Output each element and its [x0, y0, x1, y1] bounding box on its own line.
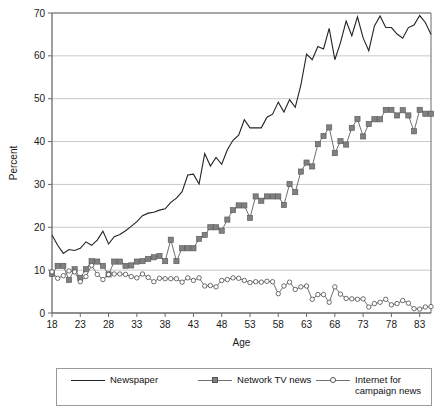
data-point-marker	[389, 107, 394, 112]
data-point-marker	[361, 134, 366, 139]
data-point-marker	[191, 246, 196, 251]
x-axis-tick-label: 28	[103, 319, 115, 330]
data-point-marker	[411, 129, 416, 134]
data-point-marker	[310, 297, 314, 301]
x-axis-tick-label: 83	[414, 319, 426, 330]
x-axis-tick-label: 33	[131, 319, 143, 330]
data-point-marker	[236, 203, 241, 208]
x-axis-tick-label: 58	[273, 319, 285, 330]
data-point-marker	[349, 125, 354, 130]
data-point-marker	[259, 198, 264, 203]
data-point-marker	[304, 284, 308, 288]
data-point-marker	[406, 113, 411, 118]
legend-label-network-tv-news: Network TV news	[237, 374, 311, 385]
data-point-marker	[157, 276, 161, 280]
data-point-marker	[428, 111, 433, 116]
series-line	[52, 16, 431, 254]
data-point-marker	[117, 259, 122, 264]
data-point-marker	[78, 280, 82, 284]
data-point-marker	[429, 304, 433, 308]
x-axis-title: Age	[233, 337, 251, 348]
legend-item-internet-campaign-news: Internet for campaign news	[316, 374, 425, 396]
data-point-marker	[101, 277, 105, 281]
data-point-marker	[134, 259, 139, 264]
data-point-marker	[123, 272, 127, 276]
data-point-marker	[270, 194, 275, 199]
legend-label-internet-campaign-news: Internet for campaign news	[355, 374, 421, 396]
data-point-marker	[168, 237, 173, 242]
data-point-marker	[265, 279, 269, 283]
y-axis-tick-label: 40	[34, 136, 46, 147]
data-point-marker	[344, 142, 349, 147]
data-point-marker	[321, 133, 326, 138]
data-point-marker	[287, 181, 292, 186]
data-point-marker	[180, 246, 185, 251]
data-point-marker	[293, 190, 298, 195]
data-point-marker	[361, 297, 365, 301]
x-axis-tick-label: 73	[358, 319, 370, 330]
legend-item-network-tv-news: Network TV news	[198, 374, 316, 386]
data-point-marker	[355, 116, 360, 121]
data-point-marker	[372, 301, 376, 305]
y-axis-title: Percent	[8, 146, 19, 181]
data-point-marker	[372, 117, 377, 122]
data-point-marker	[225, 277, 229, 281]
data-point-marker	[214, 285, 218, 289]
data-point-marker	[174, 259, 179, 264]
chart-legend: Newspaper Network TV news Internet for c…	[56, 368, 432, 406]
data-point-marker	[264, 194, 269, 199]
data-point-marker	[310, 164, 315, 169]
data-point-marker	[219, 228, 224, 233]
data-point-marker	[367, 305, 371, 309]
data-point-marker	[106, 272, 110, 276]
data-point-marker	[384, 297, 388, 301]
data-point-marker	[95, 259, 100, 264]
x-axis-tick-label: 48	[216, 319, 228, 330]
data-point-marker	[248, 280, 252, 284]
data-point-marker	[118, 272, 122, 276]
y-axis-tick-label: 20	[34, 222, 46, 233]
data-point-marker	[67, 269, 71, 273]
data-point-marker	[55, 263, 60, 268]
plot-area: 0102030405060701823283338434853586368737…	[0, 0, 443, 360]
data-point-marker	[140, 259, 145, 264]
data-point-marker	[61, 274, 65, 278]
line-chart-svg: 0102030405060701823283338434853586368737…	[0, 0, 443, 360]
data-point-marker	[293, 287, 297, 291]
y-axis-tick-label: 10	[34, 265, 46, 276]
x-axis-tick-label: 78	[386, 319, 398, 330]
data-point-marker	[366, 121, 371, 126]
data-point-marker	[327, 125, 332, 130]
data-point-marker	[333, 285, 337, 289]
data-point-marker	[129, 274, 133, 278]
data-point-marker	[394, 113, 399, 118]
data-point-marker	[230, 208, 235, 213]
data-point-marker	[389, 303, 393, 307]
data-point-marker	[50, 270, 54, 274]
data-point-marker	[185, 246, 190, 251]
y-axis-tick-label: 0	[39, 308, 45, 319]
data-point-marker	[112, 259, 117, 264]
data-point-marker	[400, 108, 405, 113]
data-point-marker	[61, 263, 66, 268]
data-point-marker	[276, 194, 281, 199]
data-point-marker	[203, 284, 207, 288]
data-point-marker	[95, 272, 99, 276]
data-point-marker	[100, 263, 105, 268]
data-point-marker	[66, 277, 71, 282]
data-point-marker	[89, 263, 93, 267]
data-point-marker	[163, 259, 168, 264]
data-point-marker	[208, 225, 213, 230]
data-point-marker	[253, 280, 257, 284]
data-point-marker	[151, 255, 156, 260]
data-point-marker	[83, 267, 88, 272]
y-axis-tick-label: 60	[34, 50, 46, 61]
data-point-marker	[242, 278, 246, 282]
data-point-marker	[332, 151, 337, 156]
x-axis-tick-label: 23	[75, 319, 87, 330]
y-axis-tick-label: 50	[34, 93, 46, 104]
data-point-marker	[338, 292, 342, 296]
data-point-marker	[423, 111, 428, 116]
data-point-marker	[270, 280, 274, 284]
data-point-marker	[208, 283, 212, 287]
